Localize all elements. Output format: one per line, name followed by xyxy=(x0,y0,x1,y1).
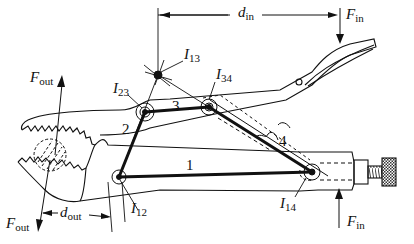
link-1 xyxy=(119,172,312,177)
f-out-top-label: Fout xyxy=(30,70,53,87)
force-arrows xyxy=(36,8,344,232)
link-4-plate xyxy=(203,95,328,180)
gripped-object xyxy=(34,139,66,171)
f-out-bottom-label: Fout xyxy=(6,216,29,233)
link-1-label: 1 xyxy=(186,158,194,173)
d-in-label: din xyxy=(238,5,254,22)
i34-label: I34 xyxy=(216,67,232,84)
f-in-bottom-label: Fin xyxy=(347,214,365,231)
pliers-linkage-diagram: din Fin Fin Fout Fout dout I13 I23 I34 I… xyxy=(0,0,414,244)
link-4 xyxy=(209,107,312,172)
i13-point xyxy=(154,71,162,79)
link-3-label: 3 xyxy=(172,99,180,114)
i23-label: I23 xyxy=(113,81,129,98)
pin-joints xyxy=(112,71,320,184)
f-in-top-label: Fin xyxy=(346,7,364,24)
i14-label: I14 xyxy=(280,196,296,213)
link-2-label: 2 xyxy=(122,122,130,137)
i12-label: I12 xyxy=(131,201,147,218)
link-4-label: 4 xyxy=(279,134,287,149)
d-out-label: dout xyxy=(60,205,82,222)
i13-label: I13 xyxy=(184,47,200,64)
